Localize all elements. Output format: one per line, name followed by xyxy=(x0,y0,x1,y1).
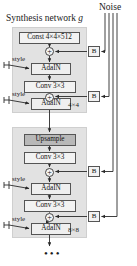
continuation-ellipsis: ••• xyxy=(44,248,62,259)
const-block[interactable]: Const 4×4×512 xyxy=(19,32,80,44)
conv-block-2[interactable]: Conv 3×3 xyxy=(24,152,76,164)
conv-block-3[interactable]: Conv 3×3 xyxy=(24,200,76,212)
resolution-label-8x8: 8×8 xyxy=(68,226,79,234)
style-label-4: style xyxy=(12,215,25,223)
style-label-3: style xyxy=(12,175,25,183)
upsample-block[interactable]: Upsample xyxy=(24,134,76,146)
sum-node-4: + xyxy=(45,213,54,222)
page-title-synthesis: Synthesis network g xyxy=(6,13,83,23)
resolution-label-4x4: 4×4 xyxy=(68,101,79,109)
sum-node-3: + xyxy=(45,168,54,177)
noise-scale-box-1[interactable]: B xyxy=(88,46,100,57)
sum-node-2: + xyxy=(45,93,54,102)
adain-block-3[interactable]: AdaIN xyxy=(31,183,71,195)
noise-scale-box-3[interactable]: B xyxy=(88,166,100,177)
noise-scale-box-4[interactable]: B xyxy=(88,211,100,222)
adain-block-4[interactable]: AdaIN xyxy=(31,223,71,235)
adain-block-1[interactable]: AdaIN xyxy=(31,63,71,75)
style-label-1: style xyxy=(12,55,25,63)
noise-scale-box-2[interactable]: B xyxy=(88,91,100,102)
synthesis-title-italic-g: g xyxy=(78,13,83,23)
conv-block-1[interactable]: Conv 3×3 xyxy=(24,81,76,93)
style-label-2: style xyxy=(12,90,25,98)
sum-node-1: + xyxy=(45,47,54,56)
synthesis-title-text: Synthesis network xyxy=(6,13,78,23)
noise-title: Noise xyxy=(99,2,121,12)
stylegan-synthesis-diagram: Synthesis network g Noise Const 4×4×512 … xyxy=(0,0,137,266)
